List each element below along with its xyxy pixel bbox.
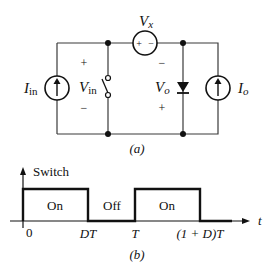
node-diode-top	[180, 40, 186, 46]
series-voltage-label: Vx	[139, 13, 153, 30]
input-voltage-label: Vin	[79, 79, 97, 96]
node-diode-bottom	[180, 131, 186, 137]
segment-label-on-1: On	[47, 198, 63, 213]
output-current-label: Io	[237, 80, 249, 97]
tick-1-plus-D-T: (1 + D)T	[176, 226, 224, 241]
output-voltage-plus: +	[159, 101, 166, 115]
input-voltage-plus: +	[81, 56, 88, 70]
input-current-label: Iin	[23, 80, 38, 97]
tick-0: 0	[26, 225, 33, 240]
timing-diagram: Switch t On Off On 0 DT T (1 + D)T (b)	[10, 164, 262, 262]
node-switch-top	[105, 40, 111, 46]
tick-T: T	[131, 226, 139, 241]
top-wire-right	[157, 43, 218, 76]
svg-text:+: +	[136, 38, 142, 49]
output-current-source-icon	[206, 76, 230, 100]
x-axis-arrow-icon	[242, 218, 250, 224]
caption-a: (a)	[129, 141, 144, 156]
series-voltage-source-icon: + −	[133, 31, 157, 55]
output-voltage-minus: −	[159, 56, 166, 70]
input-voltage-minus: −	[81, 101, 88, 115]
switch	[102, 43, 111, 134]
caption-b: (b)	[129, 247, 144, 262]
svg-text:−: −	[148, 38, 154, 49]
node-switch-bottom	[105, 131, 111, 137]
circuit-diagram: Iin + Vin − + − Vx − Vo + Io (a)	[23, 13, 249, 156]
tick-DT: DT	[79, 226, 97, 241]
output-voltage-label: Vo	[155, 79, 170, 96]
segment-label-on-2: On	[159, 198, 175, 213]
segment-label-off: Off	[103, 198, 121, 213]
diode	[177, 43, 189, 134]
x-axis-label: t	[258, 213, 262, 228]
y-axis-arrow-icon	[20, 167, 26, 175]
figure: Iin + Vin − + − Vx − Vo + Io (a) Switch	[0, 0, 274, 275]
input-current-source-icon	[45, 76, 69, 100]
y-axis-label: Switch	[33, 164, 70, 179]
